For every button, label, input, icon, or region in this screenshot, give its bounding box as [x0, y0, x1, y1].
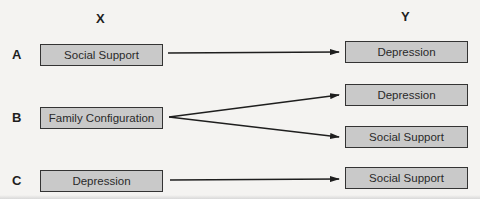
page-bleed — [0, 195, 480, 199]
arrow-b-upper — [169, 95, 339, 117]
arrows-layer — [0, 0, 480, 199]
arrow-b-lower — [169, 117, 339, 137]
arrow-a — [168, 52, 339, 53]
arrow-c — [170, 179, 339, 180]
